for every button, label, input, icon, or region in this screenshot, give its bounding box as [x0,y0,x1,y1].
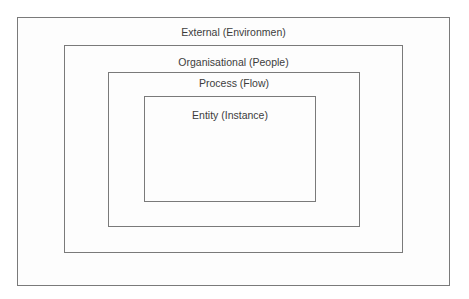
layer-organisational-label: Organisational (People) [65,56,402,68]
layer-entity-box: Entity (Instance) [144,96,316,202]
layer-process-box: Process (Flow) Entity (Instance) [108,72,360,227]
layer-external-label: External (Environmen) [18,26,449,38]
layer-process-label: Process (Flow) [109,77,359,89]
layer-entity-label: Entity (Instance) [145,109,315,121]
layer-organisational-box: Organisational (People) Process (Flow) E… [64,45,403,253]
layer-external-box: External (Environmen) Organisational (Pe… [17,17,450,286]
